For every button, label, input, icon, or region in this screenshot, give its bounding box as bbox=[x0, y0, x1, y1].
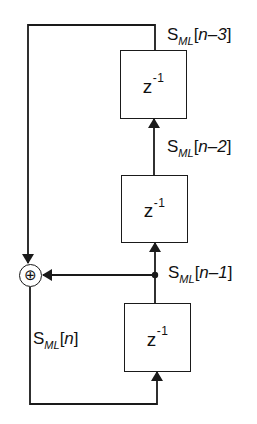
delay-block-bottom: z-1 bbox=[124, 303, 191, 372]
delay-label: z-1 bbox=[144, 200, 166, 222]
summing-junction: ⊕ bbox=[19, 264, 42, 287]
junction-dot bbox=[152, 272, 158, 278]
signal-label-n-minus-1: SML[n–1] bbox=[168, 264, 232, 281]
delay-label: z-1 bbox=[143, 76, 165, 98]
delay-block-top: z-1 bbox=[120, 50, 187, 119]
signal-label-n-minus-2: SML[n–2] bbox=[167, 138, 231, 155]
delay-label: z-1 bbox=[147, 329, 169, 351]
signal-label-n-minus-3: SML[n–3] bbox=[167, 26, 231, 43]
signal-label-n: SML[n] bbox=[33, 330, 79, 347]
delay-block-middle: z-1 bbox=[121, 175, 188, 243]
plus-circle-icon: ⊕ bbox=[24, 267, 37, 282]
